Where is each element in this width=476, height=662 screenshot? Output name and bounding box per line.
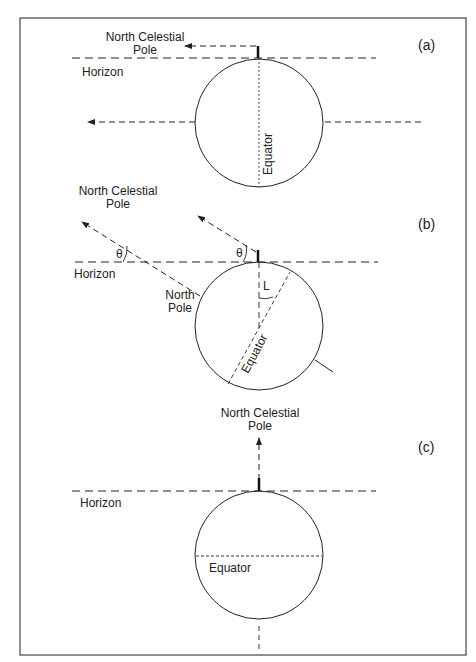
panel-c: North Celestial Pole Horizon Equator (c) [72,406,434,650]
horizon-label: Horizon [82,65,123,79]
theta-arc-right [243,245,247,262]
celestial-pole-label-2: Pole [248,419,272,433]
panel-label: (c) [418,439,434,455]
horizon-label: Horizon [74,267,115,281]
equator-label: Equator [209,561,251,575]
panel-b: θ θ L North Celestial Pole Horizon North… [74,184,435,390]
theta-label-right: θ [236,246,243,260]
equator-label: Equator [238,332,270,376]
north-pole-label-2: Pole [168,301,192,315]
latitude-label: L [263,279,270,293]
north-pole-ray [82,222,200,296]
equator-label: Equator [261,133,275,175]
theta-label-left: θ [116,247,123,261]
celestial-pole-label-2: Pole [133,43,157,57]
panel-label: (a) [418,37,435,53]
axis-stub [315,360,333,372]
observer-pole-ray [198,216,256,252]
earth-circle [195,491,323,619]
latitude-arc [259,297,273,299]
celestial-pole-label-2: Pole [106,197,130,211]
horizon-label: Horizon [80,496,121,510]
equator-line [228,272,290,384]
theta-arc-left [123,246,127,262]
celestial-pole-label: North Celestial [79,184,158,198]
panel-label: (b) [418,216,435,232]
celestial-pole-diagram: North Celestial Pole Horizon Equator (a)… [0,0,476,662]
figure-frame [20,18,466,655]
panel-a: North Celestial Pole Horizon Equator (a) [72,30,435,187]
celestial-pole-label: North Celestial [221,406,300,420]
celestial-pole-label: North Celestial [106,30,185,44]
north-pole-label: North [165,288,194,302]
